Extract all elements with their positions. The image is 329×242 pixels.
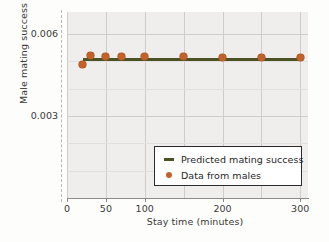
line-swatch-icon	[162, 152, 176, 166]
x-tick-mark	[67, 198, 68, 202]
y-axis-spine	[61, 10, 62, 202]
x-tick-label: 300	[280, 203, 320, 214]
y-tick-label: 0.003	[12, 110, 58, 121]
gridline-horizontal	[67, 34, 308, 35]
dot-swatch-icon	[162, 168, 176, 182]
chart-figure: Male mating success Stay time (minutes) …	[0, 0, 329, 242]
predicted-mating-success-line	[83, 58, 301, 60]
legend-item-predicted: Predicted mating success	[162, 151, 296, 167]
x-tick-label: 200	[203, 203, 243, 214]
x-axis-title: Stay time (minutes)	[60, 216, 329, 227]
gridline-horizontal	[67, 61, 308, 62]
chart-legend: Predicted mating success Data from males	[154, 146, 302, 186]
data-point	[258, 54, 265, 61]
data-point	[297, 54, 304, 61]
y-tick-label: 0.006	[12, 28, 58, 39]
gridline-horizontal	[67, 89, 308, 90]
x-tick-mark	[223, 198, 224, 202]
legend-item-data: Data from males	[162, 167, 296, 183]
x-tick-label: 0	[47, 203, 87, 214]
data-point	[219, 54, 226, 61]
gridline-horizontal	[67, 143, 308, 144]
x-tick-mark	[106, 198, 107, 202]
x-axis-line	[67, 198, 309, 199]
x-tick-mark	[300, 198, 301, 202]
data-point	[102, 53, 109, 60]
legend-label-predicted: Predicted mating success	[181, 154, 304, 165]
data-point	[79, 61, 86, 68]
x-tick-label: 50	[86, 203, 126, 214]
data-point	[87, 52, 94, 59]
legend-label-data: Data from males	[181, 170, 261, 181]
gridline-horizontal	[67, 116, 308, 117]
x-tick-label: 100	[125, 203, 165, 214]
x-tick-mark	[145, 198, 146, 202]
